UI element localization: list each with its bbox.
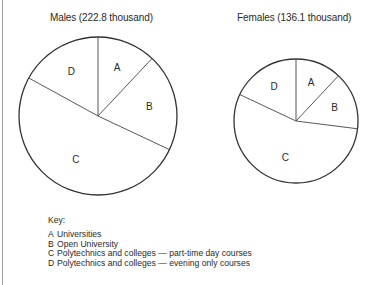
slice-label-d: D: [68, 66, 75, 77]
legend: Key: AUniversities BOpen University CPol…: [48, 216, 252, 268]
legend-title: Key:: [48, 216, 252, 225]
females-pie: ABCD: [234, 59, 358, 183]
slice-label-b: B: [146, 101, 153, 112]
legend-item-d: DPolytechnics and colleges — evening onl…: [48, 259, 252, 268]
slice-label-a: A: [308, 77, 315, 88]
slice-label-c: C: [72, 154, 79, 165]
slice-label-d: D: [270, 81, 277, 92]
males-pie: ABCD: [19, 37, 177, 195]
slice-label-c: C: [282, 152, 289, 163]
slice-label-a: A: [114, 62, 121, 73]
slice-label-b: B: [331, 102, 338, 113]
